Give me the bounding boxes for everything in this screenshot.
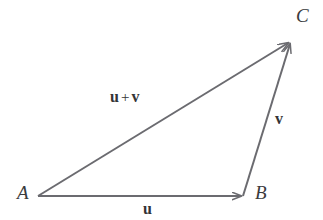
vector-label-v-operand: v [131,88,139,105]
vector-label-u-plus-v: u+v [110,89,139,105]
vector-label-u-operand: u [110,88,119,105]
vertex-label-b: B [255,183,267,202]
vertex-label-c: C [296,6,309,25]
plus-operator: + [119,89,131,105]
vector-label-u: u [143,201,152,217]
vector-label-v: v [275,111,283,127]
vertex-label-a: A [17,183,29,202]
vector-triangle-figure: A B C u v u+v [0,0,323,220]
